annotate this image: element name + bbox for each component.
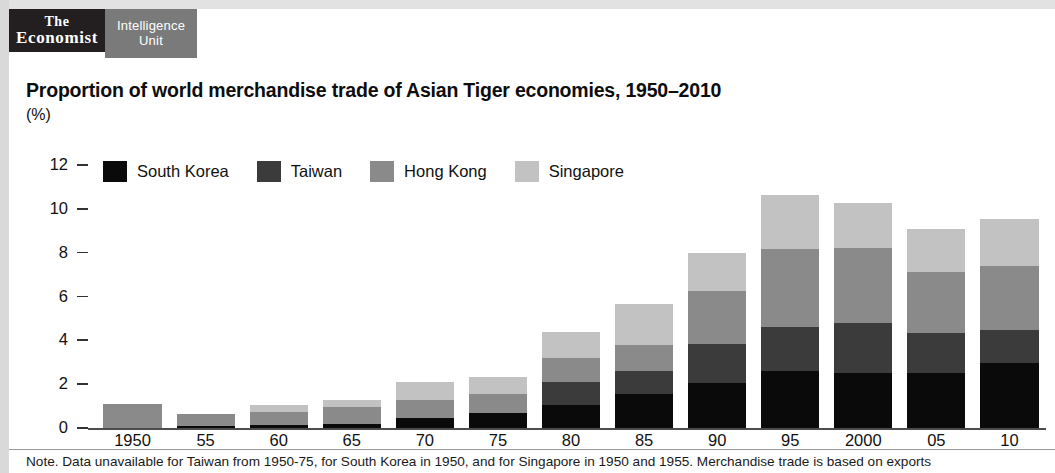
bar-segment[interactable] (542, 405, 600, 428)
bar-segment[interactable] (980, 330, 1038, 363)
bar-segment[interactable] (542, 358, 600, 382)
bar-segment[interactable] (834, 323, 892, 373)
bar-segment[interactable] (396, 382, 454, 400)
y-axis-tick-label: 0 (28, 418, 68, 437)
plot-area (96, 165, 1046, 428)
x-axis-tick-label: 1950 (96, 431, 169, 450)
y-axis-tick-mark (77, 208, 88, 210)
bar-group[interactable] (542, 332, 600, 428)
bar-segment[interactable] (615, 394, 673, 428)
y-axis-tick-mark (77, 252, 88, 254)
bar-group[interactable] (469, 377, 527, 428)
bar-segment[interactable] (688, 344, 746, 383)
economist-logo-line1: The (44, 15, 69, 29)
bar-segment[interactable] (469, 377, 527, 395)
bar-segment[interactable] (907, 373, 965, 428)
bar-group[interactable] (907, 229, 965, 428)
bar-segment[interactable] (834, 373, 892, 428)
bar-segment[interactable] (542, 332, 600, 358)
bar-segment[interactable] (834, 203, 892, 248)
bar-segment[interactable] (688, 253, 746, 291)
eiu-logo-line1: Intelligence (117, 19, 185, 34)
y-axis-tick-mark (77, 164, 88, 166)
bar-segment[interactable] (542, 382, 600, 405)
bar-segment[interactable] (980, 219, 1038, 266)
masthead: The Economist Intelligence Unit (9, 9, 197, 58)
y-axis-tick-label: 6 (28, 287, 68, 306)
bar-group[interactable] (250, 405, 308, 428)
bar-group[interactable] (103, 404, 161, 428)
bar-segment[interactable] (177, 414, 235, 426)
bar-group[interactable] (615, 304, 673, 428)
y-axis-tick-mark (77, 296, 88, 298)
bar-series-container (96, 165, 1046, 428)
bar-segment[interactable] (907, 333, 965, 374)
bar-segment[interactable] (761, 327, 819, 371)
x-axis-tick-label: 70 (388, 431, 461, 450)
bar-segment[interactable] (907, 272, 965, 332)
bar-group[interactable] (396, 382, 454, 428)
bar-segment[interactable] (688, 291, 746, 344)
bar-segment[interactable] (250, 412, 308, 426)
bar-group[interactable] (761, 195, 819, 428)
eiu-logo: Intelligence Unit (105, 9, 197, 58)
x-axis-tick-label: 85 (608, 431, 681, 450)
y-axis-tick-label: 4 (28, 330, 68, 349)
x-axis-tick-label: 75 (461, 431, 534, 450)
bar-segment[interactable] (980, 363, 1038, 428)
bar-segment[interactable] (688, 383, 746, 428)
x-axis-line (88, 428, 1046, 430)
y-axis-tick-mark (77, 339, 88, 341)
page-subtitle: (%) (26, 106, 51, 124)
page-title: Proportion of world merchandise trade of… (26, 79, 721, 102)
left-edge-strip (0, 0, 9, 473)
bar-group[interactable] (177, 414, 235, 428)
bar-segment[interactable] (469, 394, 527, 413)
x-axis-tick-label: 10 (973, 431, 1046, 450)
bar-segment[interactable] (396, 418, 454, 428)
y-axis-tick-label: 8 (28, 243, 68, 262)
bar-group[interactable] (688, 253, 746, 428)
bar-segment[interactable] (761, 371, 819, 428)
bar-segment[interactable] (834, 248, 892, 323)
x-axis-tick-label: 60 (242, 431, 315, 450)
y-axis-tick-mark (77, 383, 88, 385)
x-axis-tick-label: 80 (534, 431, 607, 450)
bar-segment[interactable] (615, 304, 673, 345)
y-axis-tick-mark (77, 427, 88, 429)
bar-group[interactable] (323, 400, 381, 428)
bar-segment[interactable] (103, 404, 161, 428)
y-axis-tick-label: 10 (28, 199, 68, 218)
x-axis-tick-label: 05 (900, 431, 973, 450)
bar-segment[interactable] (323, 400, 381, 408)
bar-group[interactable] (980, 219, 1038, 428)
footnote: Note. Data unavailable for Taiwan from 1… (26, 454, 931, 469)
bar-segment[interactable] (761, 195, 819, 250)
x-axis-tick-label: 65 (315, 431, 388, 450)
bar-group[interactable] (834, 203, 892, 428)
bar-segment[interactable] (761, 249, 819, 327)
y-axis-tick-label: 2 (28, 374, 68, 393)
top-edge-strip (0, 0, 1055, 9)
bar-segment[interactable] (615, 371, 673, 394)
bar-segment[interactable] (615, 345, 673, 371)
chart-page: The Economist Intelligence Unit Proporti… (0, 0, 1055, 473)
x-axis-tick-label: 90 (681, 431, 754, 450)
x-axis-tick-label: 2000 (827, 431, 900, 450)
bar-segment[interactable] (980, 266, 1038, 331)
economist-logo-line2: Economist (16, 29, 98, 46)
eiu-logo-line2: Unit (139, 34, 163, 49)
bar-segment[interactable] (907, 229, 965, 273)
economist-logo: The Economist (9, 9, 105, 52)
bar-segment[interactable] (469, 413, 527, 428)
bar-segment[interactable] (323, 407, 381, 423)
bar-segment[interactable] (396, 400, 454, 419)
x-axis-tick-label: 95 (754, 431, 827, 450)
x-axis-tick-label: 55 (169, 431, 242, 450)
footnote-divider (9, 449, 1055, 450)
y-axis-tick-label: 12 (28, 155, 68, 174)
